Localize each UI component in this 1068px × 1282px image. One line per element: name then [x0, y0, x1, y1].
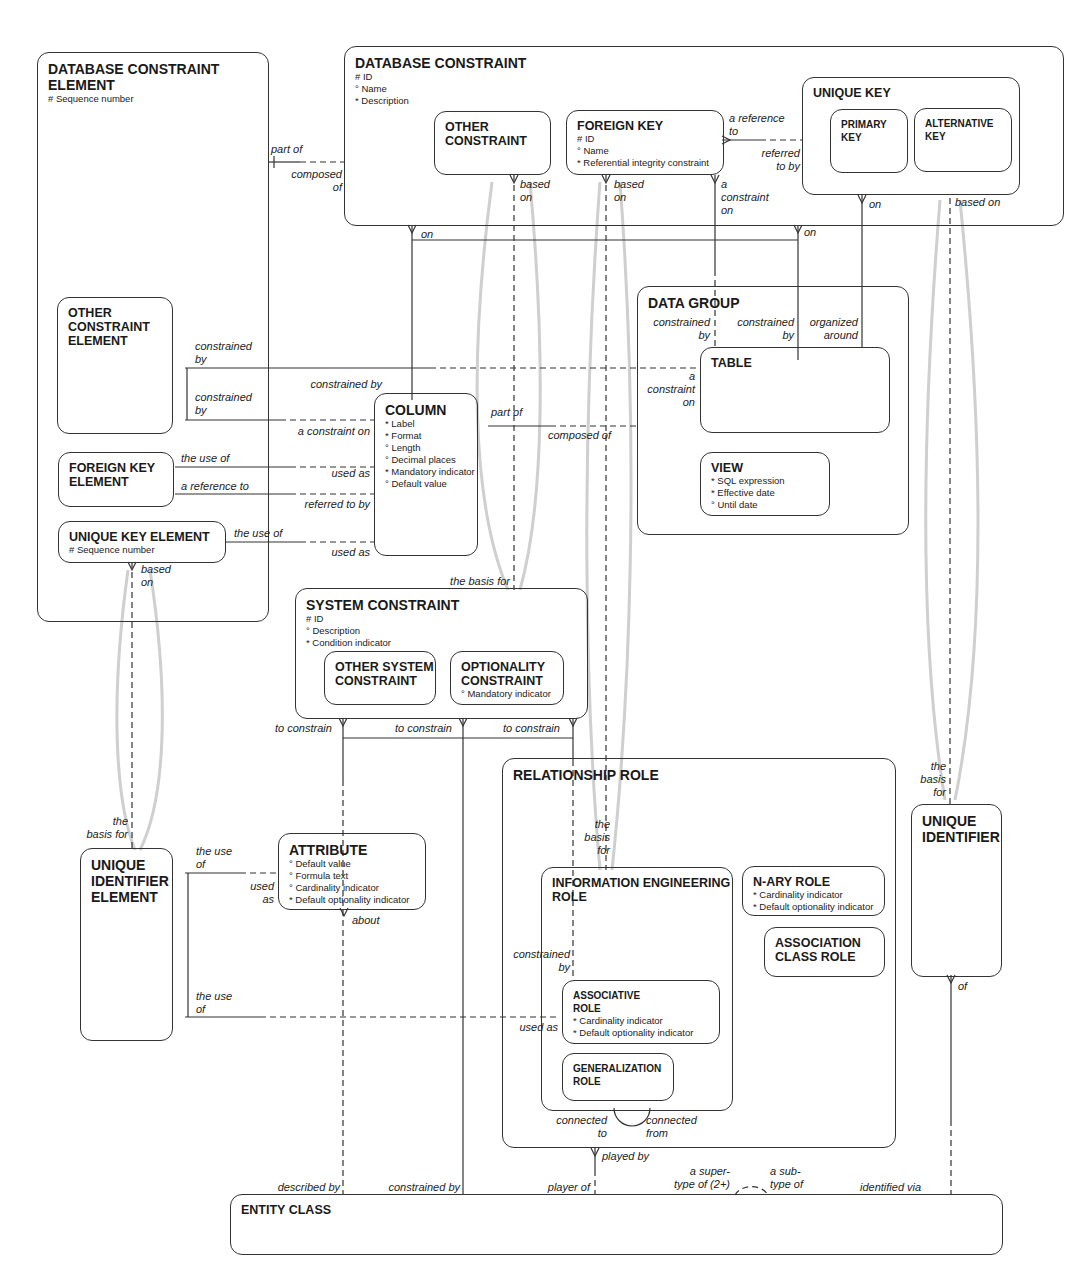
- entity-alternative-key[interactable]: ALTERNATIVE KEY: [914, 108, 1012, 172]
- rel-label: player of: [500, 1181, 590, 1194]
- rel-label: constrained by: [500, 948, 570, 974]
- rel-label: a super- type of (2+): [650, 1165, 730, 1191]
- entity-attributes: # ID ° Description * Condition indicator: [296, 613, 587, 649]
- rel-label: the use of: [196, 990, 232, 1016]
- entity-title: OTHER CONSTRAINT: [435, 112, 550, 148]
- entity-primary-key[interactable]: PRIMARY KEY: [830, 109, 908, 173]
- entity-title: N-ARY ROLE: [743, 867, 884, 889]
- entity-title: SYSTEM CONSTRAINT: [296, 589, 587, 613]
- rel-label: referred to by: [280, 498, 370, 511]
- rel-label: the basis for: [580, 818, 610, 857]
- rel-label: of: [958, 980, 967, 993]
- rel-label: a reference to: [729, 112, 785, 138]
- rel-label: composed of: [282, 168, 342, 194]
- rel-label: to constrain: [503, 722, 560, 735]
- rel-label: based on: [614, 178, 644, 204]
- entity-attributes: # ID ° Name * Referential integrity cons…: [567, 133, 723, 169]
- rel-label: connected to: [545, 1114, 607, 1140]
- entity-title: DATA GROUP: [638, 287, 908, 311]
- rel-label: a constraint on: [280, 425, 370, 438]
- entity-title: GENERALIZATION ROLE: [563, 1054, 673, 1088]
- rel-label: the basis for: [900, 760, 946, 799]
- er-diagram: DATABASE CONSTRAINT ELEMENT # Sequence n…: [0, 0, 1068, 1282]
- rel-label: used as: [230, 880, 274, 906]
- entity-view[interactable]: VIEW * SQL expression * Effective date °…: [700, 452, 830, 516]
- rel-label: on: [869, 198, 881, 211]
- entity-unique-identifier-element[interactable]: UNIQUE IDENTIFIER ELEMENT: [80, 848, 173, 1041]
- entity-title: RELATIONSHIP ROLE: [503, 759, 895, 783]
- rel-label: organized around: [800, 316, 858, 342]
- entity-title: PRIMARY KEY: [831, 110, 907, 144]
- rel-label: a sub- type of: [770, 1165, 803, 1191]
- entity-n-ary-role[interactable]: N-ARY ROLE * Cardinality indicator * Def…: [742, 866, 885, 916]
- entity-column[interactable]: COLUMN * Label * Format ° Length ° Decim…: [374, 393, 478, 556]
- rel-label: the use of: [181, 452, 229, 465]
- entity-title: OPTIONALITY CONSTRAINT: [451, 652, 563, 688]
- entity-generalization-role[interactable]: GENERALIZATION ROLE: [562, 1053, 674, 1101]
- entity-unique-identifier[interactable]: UNIQUE IDENTIFIER: [911, 804, 1002, 977]
- entity-attributes: * Label * Format ° Length ° Decimal plac…: [375, 418, 477, 490]
- entity-attributes: # Sequence number: [59, 544, 225, 556]
- entity-title: ENTITY CLASS: [231, 1195, 1002, 1217]
- entity-title: UNIQUE KEY: [803, 78, 1019, 100]
- entity-title: DATABASE CONSTRAINT ELEMENT: [38, 53, 268, 93]
- entity-title: UNIQUE IDENTIFIER: [912, 805, 1001, 845]
- entity-title: ATTRIBUTE: [279, 834, 425, 858]
- entity-title: ASSOCIATION CLASS ROLE: [765, 928, 884, 964]
- entity-title: FOREIGN KEY: [567, 111, 723, 133]
- rel-label: on: [804, 226, 816, 239]
- rel-label: used as: [490, 1021, 558, 1034]
- entity-attributes: ° Default value ° Formula text ° Cardina…: [279, 858, 425, 906]
- entity-other-constraint[interactable]: OTHER CONSTRAINT: [434, 111, 551, 175]
- rel-label: part of: [271, 143, 302, 156]
- entity-attributes: * Cardinality indicator * Default option…: [743, 889, 884, 913]
- entity-table[interactable]: TABLE: [700, 347, 890, 433]
- entity-title: UNIQUE IDENTIFIER ELEMENT: [81, 849, 172, 905]
- rel-label: composed of: [548, 429, 611, 442]
- rel-label: based on: [141, 563, 171, 589]
- rel-label: about: [352, 914, 380, 927]
- entity-title: TABLE: [701, 348, 889, 370]
- entity-attributes: ° Mandatory indicator: [451, 688, 563, 700]
- rel-label: played by: [602, 1150, 649, 1163]
- rel-label: to constrain: [275, 722, 332, 735]
- entity-title: COLUMN: [375, 394, 477, 418]
- rel-label: to constrain: [395, 722, 452, 735]
- rel-label: constrained by: [195, 391, 252, 417]
- entity-title: ASSOCIATIVE ROLE: [563, 981, 719, 1015]
- rel-label: a constraint on: [640, 370, 695, 409]
- entity-entity-class[interactable]: ENTITY CLASS: [230, 1194, 1003, 1255]
- rel-label: connected from: [646, 1114, 697, 1140]
- entity-title: OTHER CONSTRAINT ELEMENT: [58, 298, 172, 348]
- entity-other-system-constraint[interactable]: OTHER SYSTEM CONSTRAINT: [324, 651, 436, 705]
- rel-label: a reference to: [181, 480, 249, 493]
- rel-label: constrained by: [640, 316, 710, 342]
- rel-label: constrained by: [722, 316, 794, 342]
- entity-attribute[interactable]: ATTRIBUTE ° Default value ° Formula text…: [278, 833, 426, 910]
- entity-title: INFORMATION ENGINEERING ROLE: [542, 868, 732, 904]
- entity-foreign-key-element[interactable]: FOREIGN KEY ELEMENT: [58, 452, 174, 507]
- entity-attributes: * Cardinality indicator * Default option…: [563, 1015, 719, 1039]
- entity-association-class-role[interactable]: ASSOCIATION CLASS ROLE: [764, 927, 885, 977]
- entity-title: OTHER SYSTEM CONSTRAINT: [325, 652, 435, 688]
- rel-label: the basis for: [60, 815, 128, 841]
- entity-optionality-constraint[interactable]: OPTIONALITY CONSTRAINT ° Mandatory indic…: [450, 651, 564, 705]
- rel-label: constrained by: [300, 378, 382, 391]
- rel-label: the use of: [234, 527, 282, 540]
- rel-label: based on: [520, 178, 550, 204]
- entity-unique-key-element[interactable]: UNIQUE KEY ELEMENT # Sequence number: [58, 521, 226, 563]
- rel-label: the basis for: [420, 575, 510, 588]
- rel-label: constrained by: [195, 340, 252, 366]
- rel-label: a constraint on: [721, 178, 769, 217]
- rel-label: used as: [300, 546, 370, 559]
- rel-label: referred to by: [748, 147, 800, 173]
- rel-label: based on: [955, 196, 1000, 209]
- entity-title: DATABASE CONSTRAINT: [345, 47, 1063, 71]
- entity-attributes: # Sequence number: [38, 93, 268, 105]
- rel-label: the use of: [196, 845, 232, 871]
- entity-other-constraint-element[interactable]: OTHER CONSTRAINT ELEMENT: [57, 297, 173, 434]
- rel-label: identified via: [860, 1181, 921, 1194]
- entity-title: ALTERNATIVE KEY: [915, 109, 1011, 143]
- entity-foreign-key[interactable]: FOREIGN KEY # ID ° Name * Referential in…: [566, 110, 724, 175]
- entity-associative-role[interactable]: ASSOCIATIVE ROLE * Cardinality indicator…: [562, 980, 720, 1044]
